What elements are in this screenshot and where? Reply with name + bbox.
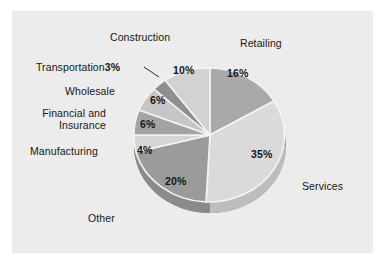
slice-value-other: 20% [165, 175, 186, 187]
slice-label-manufacturing: Manufacturing [30, 145, 98, 157]
slice-value-transportation: 3% [105, 61, 120, 73]
slice-label-transportation: Transportation3% [36, 61, 120, 73]
slice-value-manufacturing: 4% [137, 144, 152, 156]
slice-value-wholesale: 6% [150, 94, 165, 106]
slice-label-transportation-text: Transportation [36, 61, 105, 73]
slice-label-construction: Construction [110, 31, 170, 43]
slice-label-financial-and-insurance: Financial and Insurance [18, 107, 106, 131]
slice-value-services: 35% [251, 148, 272, 160]
slice-value-retailing: 16% [227, 67, 248, 79]
pie-chart-graphic [0, 0, 387, 271]
slice-label-wholesale: Wholesale [65, 85, 115, 97]
slice-value-construction: 10% [173, 64, 194, 76]
pie-slices [134, 68, 285, 202]
pie-chart-figure: Construction Transportation3% Wholesale … [0, 0, 387, 271]
slice-label-retailing: Retailing [240, 37, 282, 49]
transportation-leader-line [144, 67, 159, 77]
slice-label-services: Services [302, 180, 343, 192]
slice-value-financial-and-insurance: 6% [140, 118, 155, 130]
slice-label-other: Other [88, 212, 115, 224]
chart-area: Construction Transportation3% Wholesale … [0, 0, 387, 271]
